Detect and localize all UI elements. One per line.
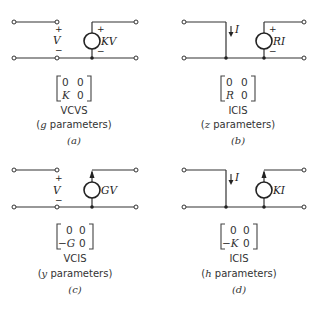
svg-text:−K: −K xyxy=(222,237,240,249)
parameter-caption: (h parameters) xyxy=(201,268,277,279)
svg-text:R: R xyxy=(225,89,234,101)
source-label: GV xyxy=(101,184,118,196)
plus-sign: + xyxy=(269,24,277,34)
terminal-icon xyxy=(302,20,306,24)
terminal-icon xyxy=(182,205,186,209)
junction-dot xyxy=(262,56,266,60)
panel-a-vcvs: + V − + KV − 0 0 K 0 VCVS (g parameters)… xyxy=(12,20,138,146)
current-direction-arrow-icon xyxy=(90,170,95,178)
svg-text:0: 0 xyxy=(77,89,84,101)
sub-figure-label: (b) xyxy=(231,135,245,146)
terminal-icon xyxy=(12,20,16,24)
terminal-icon xyxy=(12,205,16,209)
sub-figure-label: (a) xyxy=(67,135,81,146)
plus-sign: + xyxy=(55,173,63,183)
junction-dot xyxy=(224,205,228,209)
sub-figure-label: (d) xyxy=(232,284,246,295)
terminal-icon xyxy=(302,168,306,172)
svg-text:0: 0 xyxy=(66,224,73,236)
panel-b-matrix: 0 0 R 0 xyxy=(221,76,255,101)
parameter-caption: (y parameters) xyxy=(38,268,113,279)
terminal-icon xyxy=(182,168,186,172)
svg-text:0: 0 xyxy=(62,76,69,88)
svg-text:−G: −G xyxy=(58,237,75,249)
panel-b-circuit: I + RI − xyxy=(182,20,306,60)
panel-c-matrix: 0 0 −G 0 xyxy=(57,224,93,249)
controlled-sources-diagram: + V − + KV − 0 0 K 0 VCVS (g parameters)… xyxy=(0,0,320,311)
plus-sign: + xyxy=(97,24,105,34)
svg-text:0: 0 xyxy=(226,76,233,88)
current-direction-arrow-icon xyxy=(262,170,267,178)
svg-text:0: 0 xyxy=(241,89,248,101)
minus-sign: − xyxy=(97,46,105,56)
svg-text:0: 0 xyxy=(79,224,86,236)
panel-d-circuit: I KI xyxy=(182,168,306,209)
terminal-icon xyxy=(302,56,306,60)
terminal-icon xyxy=(182,56,186,60)
terminal-icon xyxy=(55,205,59,209)
minus-sign: − xyxy=(269,46,277,56)
svg-text:0: 0 xyxy=(243,224,250,236)
terminal-icon xyxy=(134,168,138,172)
svg-text:0: 0 xyxy=(79,237,86,249)
parameter-caption: (g parameters) xyxy=(36,119,111,130)
current-source-icon xyxy=(84,182,100,198)
panel-c-circuit: + V − GV xyxy=(12,168,138,209)
svg-text:K: K xyxy=(61,89,71,101)
junction-dot xyxy=(224,56,228,60)
svg-text:0: 0 xyxy=(77,76,84,88)
sub-figure-label: (c) xyxy=(68,284,82,295)
terminal-icon xyxy=(302,205,306,209)
control-current-label: I xyxy=(234,23,240,35)
panel-b-icis: I + RI − 0 0 R 0 ICIS (z parameters) (b) xyxy=(182,20,306,146)
terminal-icon xyxy=(12,168,16,172)
parameter-caption: (z parameters) xyxy=(201,119,275,130)
current-source-icon xyxy=(256,182,272,198)
panel-c-vcis: + V − GV 0 0 −G 0 VCIS (y parameters) (c… xyxy=(12,168,138,295)
terminal-icon xyxy=(55,56,59,60)
terminal-icon xyxy=(55,168,59,172)
source-type-label: VCVS xyxy=(60,105,87,116)
terminal-icon xyxy=(134,56,138,60)
source-type-label: VCIS xyxy=(63,253,86,264)
minus-sign: − xyxy=(55,195,63,205)
terminal-icon xyxy=(134,205,138,209)
plus-sign: + xyxy=(55,24,63,34)
junction-dot xyxy=(90,205,94,209)
terminal-icon xyxy=(182,20,186,24)
source-type-label: ICIS xyxy=(228,105,247,116)
panel-d-matrix: 0 0 −K 0 xyxy=(221,224,257,249)
terminal-icon xyxy=(134,20,138,24)
panel-a-matrix: 0 0 K 0 xyxy=(57,76,91,101)
source-type-label: ICIS xyxy=(229,253,248,264)
terminal-icon xyxy=(12,56,16,60)
svg-text:0: 0 xyxy=(230,224,237,236)
junction-dot xyxy=(262,205,266,209)
source-label: KI xyxy=(272,184,286,196)
minus-sign: − xyxy=(55,45,63,55)
panel-a-circuit: + V − + KV − xyxy=(12,20,138,60)
svg-text:0: 0 xyxy=(243,237,250,249)
control-current-label: I xyxy=(234,171,240,183)
panel-d-icis: I KI 0 0 −K 0 ICIS (h parameters) (d) xyxy=(182,168,306,295)
junction-dot xyxy=(90,56,94,60)
svg-text:0: 0 xyxy=(241,76,248,88)
